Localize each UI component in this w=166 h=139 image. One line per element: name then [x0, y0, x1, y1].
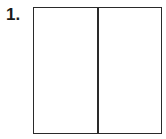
problem-number: 1. — [6, 5, 20, 25]
vertical-divider-line — [97, 8, 99, 133]
fraction-rectangle — [33, 7, 162, 134]
